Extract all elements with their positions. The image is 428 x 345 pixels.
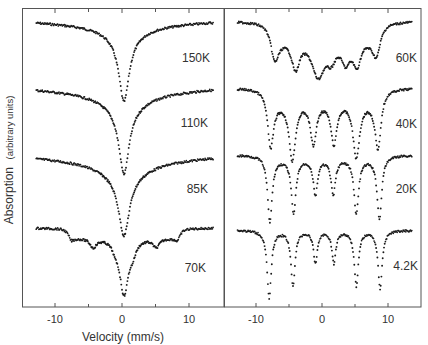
right-tick-label-0: 0	[319, 313, 325, 325]
right-tick-label-minus10: -10	[248, 313, 264, 325]
label-40K: 40K	[396, 117, 417, 131]
left-tick-label-0: 0	[119, 313, 125, 325]
spectrum-20K	[237, 154, 413, 224]
label-60K: 60K	[396, 51, 417, 65]
label-20K: 20K	[396, 182, 417, 196]
label-85K: 85K	[187, 182, 208, 196]
label-4.2K: 4.2K	[393, 259, 418, 273]
left-x-ticks	[55, 9, 189, 307]
label-110K: 110K	[181, 116, 208, 130]
left-tick-label-minus10: -10	[47, 313, 63, 325]
spectrum-4.2K	[237, 229, 413, 300]
label-70K: 70K	[185, 261, 206, 275]
right-x-ticks	[256, 9, 388, 307]
mossbauer-figure: -10 0 10 -10 0 10 Velocity (mm/s) Absorp…	[0, 0, 428, 345]
right-tick-label-10: 10	[382, 313, 394, 325]
label-150K: 150K	[182, 51, 210, 65]
y-axis-label: Absorption (arbitrary units)	[0, 96, 16, 225]
spectrum-40K	[237, 87, 413, 163]
left-tick-label-10: 10	[183, 313, 195, 325]
right-panel-spectra	[237, 21, 413, 300]
spectrum-60K	[237, 21, 413, 81]
spectrum-85K	[35, 157, 214, 237]
y-axis-label-main: Absorption	[2, 167, 16, 224]
x-axis-label: Velocity (mm/s)	[82, 330, 164, 344]
y-axis-label-units: (arbitrary units)	[4, 96, 15, 160]
